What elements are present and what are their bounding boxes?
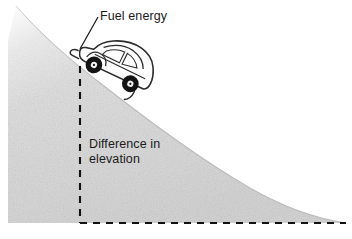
difference-in-elevation-label: Difference inelevation bbox=[89, 137, 160, 166]
fuel-energy-leader-line bbox=[80, 17, 98, 49]
elevation-label-line-1: Difference in bbox=[89, 137, 160, 151]
hillside-slope bbox=[8, 6, 346, 223]
fuel-energy-label: Fuel energy bbox=[100, 9, 167, 24]
diagram-canvas bbox=[0, 0, 352, 239]
elevation-fuel-energy-diagram: Fuel energy Difference inelevation bbox=[0, 0, 352, 239]
elevation-label-line-2: elevation bbox=[89, 152, 140, 166]
